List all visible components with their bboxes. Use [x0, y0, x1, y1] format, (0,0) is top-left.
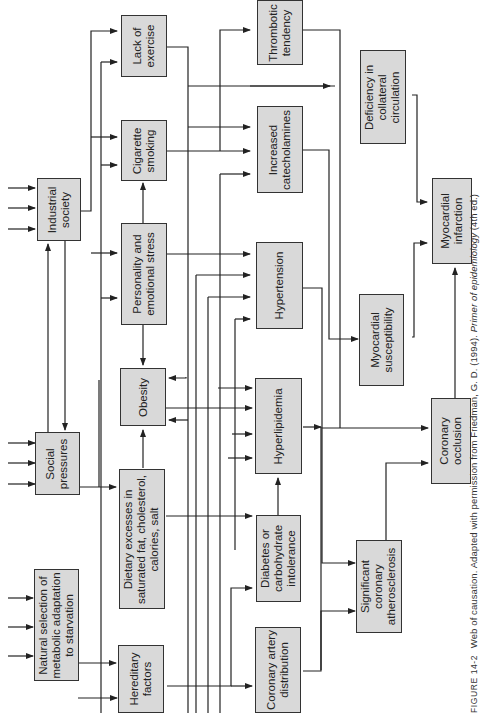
node-lack-of-exercise: Lack of exercise [121, 15, 167, 77]
node-myocardial-infarction: Myocardial infarction [432, 178, 472, 264]
node-thrombotic-tendency: Thrombotic tendency [257, 0, 303, 65]
node-dietary-excesses: Dietary excesses in saturated fat, chole… [119, 469, 165, 609]
node-significant-atherosclerosis: Significant coronary atherosclerosis [356, 540, 402, 633]
node-diabetes: Diabetes or carbohydrate intolerance [256, 515, 301, 602]
node-personality-stress: Personality and emotional stress [121, 223, 167, 325]
node-coronary-occlusion: Coronary occlusion [431, 398, 471, 484]
node-hyperlipidemia: Hyperlipidemia [255, 378, 302, 474]
node-coronary-artery-distribution: Coronary artery distribution [255, 627, 301, 713]
figure-label: FIGURE 14-2 [469, 655, 479, 713]
node-hypertension: Hypertension [256, 242, 303, 329]
figure-caption: FIGURE 14-2 Web of causation. Adapted wi… [468, 194, 479, 713]
node-social-pressures: Social pressures [35, 432, 80, 495]
node-increased-catecholamines: Increased catecholamines [257, 106, 303, 193]
figure-title: Web of causation. [468, 571, 479, 649]
node-deficiency-collateral: Deficiency in collateral circulation [360, 50, 406, 144]
node-industrial-society: Industrial society [37, 178, 81, 241]
node-cigarette-smoking: Cigarette smoking [121, 120, 167, 181]
figure-credit-book: Primer of epidemiology [468, 233, 479, 332]
node-obesity: Obesity [120, 368, 166, 426]
node-myocardial-susceptibility: Myocardial susceptibility [359, 294, 404, 386]
figure-credit-edition: (4th ed.) [468, 194, 479, 230]
node-natural-selection: Natural selection of metabolic adaptatio… [34, 569, 79, 681]
node-hereditary-factors: Hereditary factors [118, 645, 164, 713]
figure-credit: Adapted with permission from Friedman, G… [468, 335, 479, 568]
